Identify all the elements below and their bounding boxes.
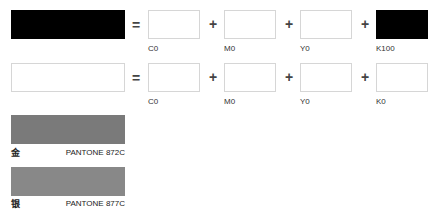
magenta-box (224, 63, 276, 92)
yellow-label: Y0 (300, 44, 310, 54)
silver-pantone-name: PANTONE 877C (11, 199, 125, 209)
black-label: K0 (376, 97, 386, 107)
magenta-label: M0 (224, 44, 235, 54)
magenta-box (224, 10, 276, 39)
plus-sign: + (361, 70, 369, 84)
black-box (376, 63, 428, 92)
equals-sign: = (132, 18, 140, 32)
cyan-label: C0 (148, 97, 158, 107)
gold-pantone-name: PANTONE 872C (11, 148, 125, 158)
white-swatch (11, 63, 125, 92)
plus-sign: + (209, 70, 217, 84)
cyan-label: C0 (148, 44, 158, 54)
cyan-box (148, 10, 200, 39)
yellow-box (300, 10, 352, 39)
gold-pantone-swatch (11, 115, 125, 144)
black-label: K100 (376, 44, 395, 54)
equals-sign: = (132, 71, 140, 85)
plus-sign: + (285, 17, 293, 31)
cyan-box (148, 63, 200, 92)
silver-pantone-swatch (11, 167, 125, 196)
magenta-label: M0 (224, 97, 235, 107)
plus-sign: + (285, 70, 293, 84)
plus-sign: + (361, 17, 369, 31)
black-box (376, 10, 428, 39)
yellow-box (300, 63, 352, 92)
plus-sign: + (209, 17, 217, 31)
yellow-label: Y0 (300, 97, 310, 107)
black-swatch (11, 10, 125, 39)
